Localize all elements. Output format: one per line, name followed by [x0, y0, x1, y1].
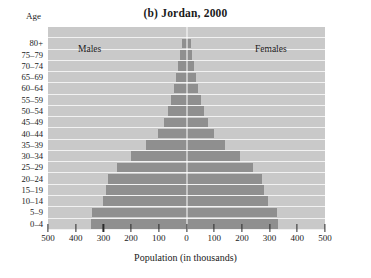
x-axis-tick-label: 400	[291, 233, 305, 243]
bar-males	[164, 118, 186, 128]
population-pyramid-figure: (b) Jordan, 2000 Age 80+75–7970–7465–696…	[0, 0, 371, 278]
bar-females	[187, 118, 209, 128]
x-axis-tick-label: 100	[152, 233, 166, 243]
x-axis-tick-label: 300	[97, 233, 111, 243]
bar-females	[187, 174, 262, 184]
bar-females	[187, 208, 277, 218]
series-label-females: Females	[255, 44, 287, 54]
x-axis-tick	[186, 224, 187, 232]
bar-females	[187, 84, 199, 94]
bar-females	[187, 73, 197, 83]
x-axis-tick	[130, 224, 131, 232]
x-axis-ticks	[48, 224, 325, 232]
x-axis-title: Population (in thousands)	[0, 252, 371, 263]
x-axis-tick	[158, 224, 159, 232]
x-axis-tick	[269, 224, 270, 232]
y-axis-tick-label: 20–24	[22, 174, 43, 185]
x-axis-tick	[75, 224, 76, 232]
bar-males	[174, 84, 186, 94]
bar-males	[117, 163, 187, 173]
bar-females	[187, 61, 195, 71]
zero-axis-line	[186, 27, 187, 230]
bar-males	[103, 196, 186, 206]
y-axis-tick-label: 70–74	[22, 61, 43, 72]
x-axis-tick	[241, 224, 242, 232]
y-axis-title: Age	[26, 11, 41, 21]
x-axis-tick-label: 100	[207, 233, 221, 243]
chart-title: (b) Jordan, 2000	[0, 7, 371, 19]
bar-males	[146, 140, 186, 150]
y-axis-tick-label: 75–79	[22, 50, 43, 61]
bar-males	[131, 151, 186, 161]
bar-females	[187, 196, 268, 206]
x-axis-tick-label: 400	[69, 233, 83, 243]
bar-males	[176, 73, 187, 83]
y-axis-tick-label: 5–9	[30, 207, 43, 218]
bar-females	[187, 50, 193, 60]
y-axis-tick-label: 35–39	[22, 140, 43, 151]
bar-females	[187, 39, 191, 49]
x-axis-tick-labels: 5004003002001000100200300400500	[0, 233, 371, 246]
y-axis-tick-label: 80+	[30, 38, 43, 49]
x-axis-tick-label: 500	[41, 233, 55, 243]
bar-males	[92, 208, 186, 218]
bar-females	[187, 95, 201, 105]
x-axis-tick-label: 200	[124, 233, 138, 243]
x-axis-tick-label: 0	[184, 233, 189, 243]
x-axis-tick-label: 500	[318, 233, 332, 243]
y-axis-tick-label: 30–34	[22, 151, 43, 162]
bar-males	[171, 95, 186, 105]
y-axis-tick-label: 0–4	[30, 219, 43, 230]
y-axis-tick-label: 25–29	[22, 162, 43, 173]
y-axis-tick-label: 10–14	[22, 196, 43, 207]
y-axis-tick-label: 65–69	[22, 72, 43, 83]
plot-area	[48, 27, 325, 230]
bar-females	[187, 106, 205, 116]
x-axis-tick	[297, 224, 298, 232]
bar-females	[187, 129, 215, 139]
x-axis-tick	[324, 224, 325, 232]
bar-females	[187, 140, 226, 150]
x-axis-tick-label: 300	[263, 233, 277, 243]
y-axis-tick-label: 50–54	[22, 106, 43, 117]
x-axis-tick	[103, 224, 104, 232]
bar-males	[158, 129, 187, 139]
y-axis-tick-label: 55–59	[22, 95, 43, 106]
series-label-males: Males	[78, 44, 101, 54]
bar-males	[168, 106, 187, 116]
x-axis-tick-label: 200	[235, 233, 249, 243]
bar-males	[108, 174, 187, 184]
bar-females	[187, 151, 240, 161]
x-axis-tick	[47, 224, 48, 232]
y-axis-tick-label: 45–49	[22, 117, 43, 128]
bar-males	[106, 185, 186, 195]
x-axis-tick	[214, 224, 215, 232]
bar-females	[187, 185, 264, 195]
y-axis-tick-label: 40–44	[22, 129, 43, 140]
y-axis-tick-labels: 80+75–7970–7465–6960–6455–5950–5445–4940…	[0, 27, 46, 230]
y-axis-tick-label: 15–19	[22, 185, 43, 196]
y-axis-tick-label: 60–64	[22, 83, 43, 94]
bar-females	[187, 163, 253, 173]
